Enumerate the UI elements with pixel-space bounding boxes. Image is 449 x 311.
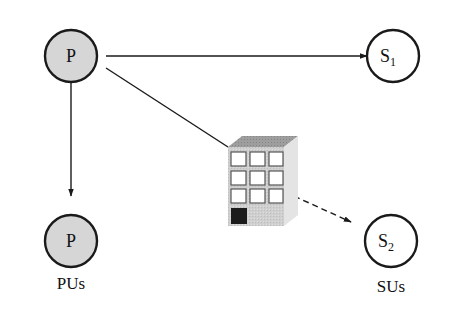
su2-label-main: S [378,231,388,251]
su1-label-main: S [380,46,390,66]
edge-pu-to-building [106,68,228,147]
primary-users-caption: PUs [57,274,85,293]
edges [71,56,367,222]
pu-rx-label: P [66,231,76,251]
su2-label-subscript: 2 [388,240,394,254]
secondary-user-1: S1 [367,30,419,82]
primary-user-receiver: P [45,215,97,267]
building-door [231,208,247,224]
building-windows [231,152,283,203]
secondary-user-2: S2 [365,215,417,267]
building-side-face [284,136,298,226]
su1-label-subscript: 1 [390,55,396,69]
building-icon [228,136,298,226]
secondary-users-caption: SUs [377,277,405,296]
pu-tx-label: P [66,46,76,66]
primary-user-transmitter: P [45,30,97,82]
network-diagram: P P S1 S2 [0,0,449,311]
